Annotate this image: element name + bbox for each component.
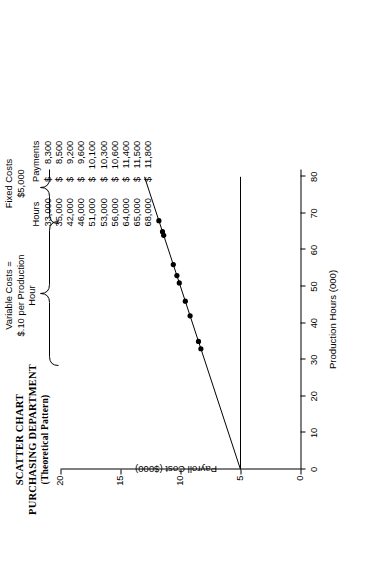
cell-payment: 8,500 [53, 140, 64, 171]
cell-payment: 10,300 [98, 140, 109, 171]
x-tick-label: 20 [308, 384, 318, 408]
cell-payment: 10,600 [109, 140, 120, 171]
x-tick-label: 60 [308, 238, 318, 262]
variable-costs-brace-icon [40, 221, 58, 365]
data-point [174, 272, 179, 277]
data-point [176, 280, 181, 285]
cell-payment: 11,500 [131, 140, 142, 171]
y-axis-label: Payroll Cost ($000) [106, 464, 246, 475]
data-point [187, 313, 192, 318]
y-tick-label: 0 [294, 475, 304, 497]
data-point [170, 262, 175, 267]
scatter-chart-figure: SCATTER CHART PURCHASING DEPARTMENT (The… [0, 0, 370, 581]
x-tick [300, 175, 305, 176]
x-tick [300, 431, 305, 432]
y-tick [300, 469, 301, 474]
annotation-variable-costs: Variable Costs = $.10 per Production Hou… [2, 225, 37, 365]
x-tick-label: 50 [308, 274, 318, 298]
cell-payment: 11,800 [142, 140, 153, 171]
y-tick-label: 10 [174, 475, 184, 497]
data-point [198, 346, 203, 351]
annotation-layer: Variable Costs = $.10 per Production Hou… [0, 169, 60, 469]
x-tick-label: 40 [308, 311, 318, 335]
data-point [156, 218, 161, 223]
x-tick-label: 30 [308, 347, 318, 371]
x-tick [300, 212, 305, 213]
x-tick [300, 358, 305, 359]
data-point [195, 338, 200, 343]
x-tick [300, 322, 305, 323]
x-tick [300, 285, 305, 286]
cell-payment: 9,200 [64, 140, 75, 171]
x-tick-label: 70 [308, 201, 318, 225]
cell-payment: 9,600 [75, 140, 86, 171]
x-tick-label: 10 [308, 420, 318, 444]
y-tick-label: 20 [54, 475, 64, 497]
x-tick [300, 249, 305, 250]
x-axis-label: Production Hours (000) [326, 169, 337, 469]
fixed-costs-brace-icon [40, 169, 58, 223]
data-layer [60, 169, 300, 469]
data-point [159, 229, 164, 234]
annotation-fixed-costs: Fixed Costs $5,000 [2, 143, 25, 223]
y-tick-label: 15 [114, 475, 124, 497]
cell-payment: 10,100 [86, 140, 97, 171]
x-tick [300, 395, 305, 396]
y-tick [60, 469, 61, 474]
x-tick-label: 80 [308, 164, 318, 188]
rotated-figure-container: SCATTER CHART PURCHASING DEPARTMENT (The… [0, 0, 370, 581]
figure-page: SCATTER CHART PURCHASING DEPARTMENT (The… [0, 0, 370, 581]
cell-payment: 8,300 [42, 140, 53, 171]
data-point [182, 298, 187, 303]
y-tick-label: 5 [234, 475, 244, 497]
chart-svg [60, 169, 300, 469]
cell-payment: 11,400 [120, 140, 131, 171]
x-tick [300, 468, 305, 469]
plot-area: 05101520 01020304050607080 Payroll Cost … [60, 169, 300, 469]
x-tick-label: 0 [308, 457, 318, 481]
